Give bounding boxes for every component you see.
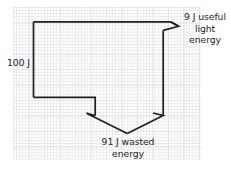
wasted-energy-label-line-2: energy: [112, 148, 144, 159]
energy-flow-diagram: 100 J 9 J usefullightenergy 91 J wastede…: [0, 0, 231, 174]
useful-energy-label-line-1: 9 J useful: [184, 11, 226, 22]
useful-energy-label-line-3: energy: [189, 34, 221, 45]
useful-energy-label-line-2: light: [195, 23, 215, 34]
wasted-energy-flow-path: [34, 97, 96, 115]
input-energy-label: 100 J: [7, 57, 30, 69]
wasted-energy-arrowhead-left: [87, 113, 128, 133]
wasted-energy-label-line-1: 91 J wasted: [102, 136, 155, 147]
wasted-energy-label: 91 J wastedenergy: [82, 136, 174, 159]
useful-energy-arrowhead: [163, 22, 178, 31]
wasted-energy-arrowhead-right: [127, 113, 163, 133]
useful-energy-arrowhead-top: [171, 22, 179, 26]
useful-energy-label: 9 J usefullightenergy: [181, 11, 229, 46]
